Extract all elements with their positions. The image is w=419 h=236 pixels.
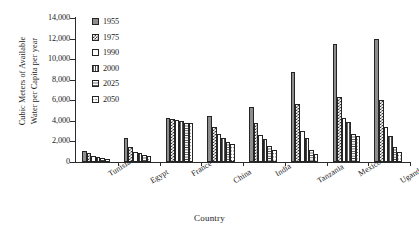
bar [105,159,110,162]
y-tick-label: 6,000 [26,96,70,104]
bar [272,150,277,162]
legend-label: 1955 [103,17,119,26]
bar [314,154,319,162]
x-tick-label: Egypt [148,178,153,186]
x-tick-label: Tanzania [315,178,320,186]
bar-group [207,18,235,162]
legend-swatch-icon [92,65,99,72]
bar [189,123,194,162]
y-tick-mark [70,141,75,142]
bar [356,136,361,162]
legend-item[interactable]: 1955 [92,14,140,30]
y-tick-label: 8,000 [26,76,70,84]
legend-item[interactable]: 2000 [92,61,140,77]
y-tick-mark [70,80,75,81]
x-tick-mark [243,162,244,166]
legend-item[interactable]: 2050 [92,92,140,108]
x-tick-label: France [190,171,195,179]
legend-label: 2050 [103,95,119,104]
y-tick-label: 0 [26,158,70,166]
x-tick-mark [327,162,328,166]
legend-swatch-icon [92,34,99,41]
y-tick-mark [70,18,75,19]
y-tick-mark [70,59,75,60]
y-tick-label: 14,000 [26,14,70,22]
y-tick-label: 12,000 [26,35,70,43]
legend-item[interactable]: 1975 [92,30,140,46]
y-tick-mark [70,100,75,101]
bar-group [166,18,194,162]
bar-group [333,18,361,162]
legend-swatch-icon [92,49,99,56]
y-tick-mark [70,121,75,122]
legend-item[interactable]: 1990 [92,45,140,61]
bar [147,156,152,162]
y-tick-label: 10,000 [26,55,70,63]
legend-label: 1975 [103,33,119,42]
bar [230,144,235,163]
legend: 195519751990200020252050 [92,14,140,107]
x-axis-title: Country [0,213,419,223]
legend-label: 2025 [103,79,119,88]
y-axis-tick-labels: 14,00012,00010,0008,0006,0004,0002,0000 [20,0,70,236]
bar [397,152,402,162]
x-tick-mark [160,162,161,166]
legend-swatch-icon [92,18,99,25]
y-tick-label: 2,000 [26,137,70,145]
legend-swatch-icon [92,80,99,87]
x-tick-label: Mexico [357,171,362,179]
y-tick-mark [70,162,75,163]
x-tick-label: China [232,178,237,186]
y-tick-mark [70,39,75,40]
x-tick-label: Uganda [399,178,404,186]
x-tick-mark [410,162,411,166]
x-tick-label: Tunisia [106,171,111,179]
legend-swatch-icon [92,96,99,103]
y-tick-label: 4,000 [26,117,70,125]
bar-group [291,18,319,162]
x-tick-label: India [273,171,278,179]
bar-group [249,18,277,162]
legend-label: 1990 [103,48,119,57]
legend-label: 2000 [103,64,119,73]
bar-group [374,18,402,162]
chart-figure: Cubic Meters of Available Water per Capi… [0,0,419,236]
legend-item[interactable]: 2025 [92,76,140,92]
